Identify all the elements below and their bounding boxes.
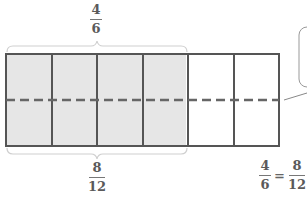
equals-sign: = [274,168,285,183]
equation-right-fraction: 8 12 [288,159,306,192]
bottom-fraction-label: 8 12 [88,161,106,194]
left-numerator: 4 [260,159,269,173]
fraction-bar [89,177,105,178]
top-numerator: 4 [91,3,100,17]
callout-box [299,27,307,87]
fraction-bar [90,19,102,20]
bottom-denominator: 12 [88,180,106,194]
top-fraction-label: 4 6 [90,3,102,36]
top-denominator: 6 [91,22,100,36]
equivalence-equation: 4 6 = 8 12 [259,159,306,192]
bottom-numerator: 8 [93,161,102,175]
left-denominator: 6 [260,178,269,192]
fraction-bar [259,175,271,176]
bottom-brace [7,148,187,159]
equation-left-fraction: 4 6 [259,159,271,192]
right-numerator: 8 [292,159,301,173]
top-brace [7,41,187,52]
right-denominator: 12 [288,178,306,192]
fraction-bar [289,175,305,176]
callout-pointer [284,93,307,100]
